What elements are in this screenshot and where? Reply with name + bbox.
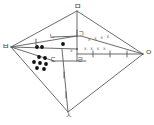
region-label-r: ㄹ: [77, 57, 83, 64]
upper-dot-cluster-dot-1: [40, 45, 44, 49]
lower-dot-cluster-dot-5: [35, 66, 39, 70]
lower-dot-cluster-dot-1: [43, 56, 47, 60]
lower-dot-cluster-dot-3: [38, 61, 42, 65]
region-label-d: ㄷ: [50, 57, 56, 64]
center-point-group: [76, 48, 78, 50]
vertex-label-m: ㅁ: [74, 3, 81, 11]
region-label-g: ㄱ: [78, 31, 84, 38]
upper-dot-cluster-dot-0: [35, 45, 39, 49]
geometry-figure: ㅁ ㅂ ㅇ ㅅ ㄴ ㄱ ㄷ ㄹ x x x x x x x x x: [0, 0, 154, 125]
segment-b-to-center: [11, 47, 77, 49]
vertex-label-o: ㅇ: [145, 49, 152, 57]
vertex-label-s: ㅅ: [65, 112, 72, 120]
vertex-label-b: ㅂ: [2, 43, 9, 51]
region-label-n: ㄴ: [49, 33, 55, 40]
lower-dot-cluster-dot-4: [44, 62, 48, 66]
lower-dot-cluster-dot-6: [42, 67, 46, 71]
lower-dot-cluster-dot-2: [32, 60, 36, 64]
lower-dot-cluster-dot-0: [37, 55, 41, 59]
dot-markers-group: [32, 42, 65, 71]
upper-dot-cluster-dot-2: [61, 42, 65, 46]
center-point-dot: [76, 48, 78, 50]
segment-s-to-g: [62, 49, 68, 112]
hatch-marks-lower: x x x x: [84, 47, 107, 52]
center-point-label: x: [70, 49, 73, 54]
